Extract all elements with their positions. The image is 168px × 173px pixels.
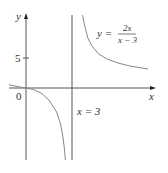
function-graph: y x 0 5 x = 3 y = 2x x − 3 [0,0,168,173]
y-axis-arrow-icon [24,13,28,19]
x-axis-label: x [148,90,154,102]
asymptote-label: x = 3 [76,105,101,117]
equation-lhs: y = [96,27,112,39]
curve-right-branch [83,15,149,69]
equation-numerator: 2x [123,23,132,33]
y-tick-label-5: 5 [15,52,21,64]
equation-denominator: x − 3 [117,35,138,45]
y-axis-label: y [15,10,21,22]
equation-label: y = 2x x − 3 [96,23,138,45]
origin-label: 0 [16,90,22,102]
